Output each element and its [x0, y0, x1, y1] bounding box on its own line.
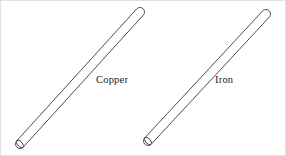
figure-container: Copper Iron [0, 0, 286, 156]
rods-diagram-canvas: Copper Iron [1, 1, 286, 156]
iron-rod-body [143, 9, 270, 145]
iron-rod [143, 9, 270, 146]
iron-rod-label: Iron [215, 74, 234, 85]
copper-rod-label: Copper [96, 74, 128, 85]
